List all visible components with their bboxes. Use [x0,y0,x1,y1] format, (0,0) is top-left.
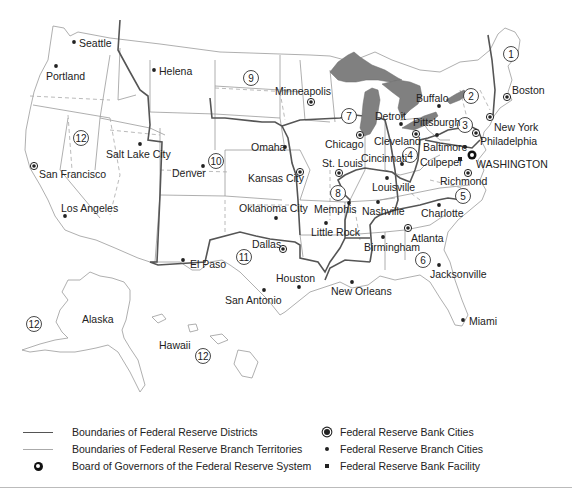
legend-label: Federal Reserve Bank Cities [340,426,474,438]
bank-city-dot [406,226,410,230]
city-richmond: Richmond [440,169,487,187]
legend-item-district-boundary: Boundaries of Federal Reserve Districts [20,426,258,438]
city-label: New Orleans [331,285,392,297]
city-label: New York [494,121,539,133]
legend-item-bank-city: Federal Reserve Bank Cities [318,426,474,438]
city-label: Richmond [440,175,487,187]
city-chicago: Chicago [325,131,364,150]
board-icon-center [470,153,474,157]
district-marker: 8 [331,186,346,201]
city-label: Cleveland [374,135,421,147]
bank-city-dot [337,171,341,175]
branch-city-icon [262,288,266,292]
city-denver: Denver [172,164,206,179]
legend-item-branch-city: Federal Reserve Branch Cities [318,443,483,455]
city-new-york: New York [486,113,539,133]
city-layer: SeattlePortlandHelenaMinneapolisSalt Lak… [30,37,547,327]
city-st-louis: St. Louis [322,157,363,177]
city-minneapolis: Minneapolis [275,85,331,106]
branch-city-icon [350,280,354,284]
branch-city-icon [385,176,389,180]
branch-city-icon [138,142,142,146]
district-marker: 5 [456,189,471,204]
district-marker: 10 [209,154,224,169]
city-seattle: Seattle [72,37,112,49]
city-label: Little Rock [311,226,361,238]
city-label: Cincinnati [361,152,407,164]
district-number: 12 [28,319,40,330]
region-label: Alaska [82,313,114,325]
city-label: Atlanta [411,232,444,244]
bank-city-dot [488,115,492,119]
branch-city-icon [181,258,185,262]
lake-superior [330,52,402,82]
legend-item-board: Board of Governors of the Federal Reserv… [20,460,311,472]
city-jacksonville: Jacksonville [430,263,487,280]
bank-city-dot [505,95,509,99]
district-number: 10 [210,156,222,167]
district-marker: 1 [504,47,519,62]
district-number: 9 [248,73,254,84]
facility-icon [318,464,336,468]
city-culpeper: Culpeper [420,156,463,168]
city-little-rock: Little Rock [311,221,361,238]
city-buffalo: Buffalo [416,92,449,108]
city-label: Jacksonville [430,268,487,280]
district-number: 1 [508,49,514,60]
bank-city-dot [32,164,36,168]
district-marker: 12 [27,317,42,332]
city-label: Dallas [252,238,281,250]
city-label: Helena [159,65,192,77]
city-charlotte: Charlotte [421,203,464,219]
city-houston: Houston [276,272,315,289]
district-marker: 9 [244,71,259,86]
district-number: 11 [239,252,250,263]
city-helena: Helena [152,65,192,77]
city-label: Portland [46,70,85,82]
district-marker: 2 [464,89,479,104]
city-label: Boston [512,84,545,96]
city-los-angeles: Los Angeles [61,202,118,218]
branch-city-icon [435,133,439,137]
city-label: Chicago [325,138,364,150]
city-label: WASHINGTON [476,158,548,170]
branch-city-icon [72,40,76,44]
legend: Boundaries of Federal Reserve Districts … [0,420,572,490]
district-marker: 11 [237,250,252,265]
city-label: El Paso [190,258,226,270]
city-label: Denver [172,167,206,179]
city-label: Memphis [314,203,357,215]
city-label: Buffalo [416,92,449,104]
region-label: Hawaii [159,339,191,351]
city-atlanta: Atlanta [404,224,443,244]
branch-city-icon [54,64,58,68]
bank-city-dot [474,131,478,135]
city-label: Culpeper [420,156,463,168]
city-louisville: Louisville [372,176,415,193]
city-portland: Portland [46,64,85,82]
city-label: Philadelphia [480,135,537,147]
city-washington: WASHINGTON [468,151,548,171]
city-label: Oklahoma City [239,202,309,214]
legend-label: Boundaries of Federal Reserve Branch Ter… [72,443,302,455]
city-nashville: Nashville [362,200,405,217]
legend-label: Federal Reserve Bank Facility [340,460,480,472]
city-san-francisco: San Francisco [30,162,106,180]
district-marker: 7 [342,109,357,124]
city-label: Nashville [362,205,405,217]
district-marker: 12 [74,131,89,146]
board-of-governors-icon [20,462,56,471]
bank-city-dot [358,133,362,137]
city-label: Charlotte [421,207,464,219]
bank-city-dot [309,100,313,104]
bank-city-icon [318,429,336,435]
district-number: 12 [75,133,87,144]
alaska-outline [22,272,145,392]
bank-city-dot [281,247,285,251]
city-label: Detroit [375,110,406,122]
branch-city-icon [399,122,403,126]
city-san-antonio: San Antonio [225,288,282,306]
city-baltimore: Baltimore [423,141,468,153]
branch-city-icon [324,221,328,225]
city-label: Kansas City [248,172,305,184]
